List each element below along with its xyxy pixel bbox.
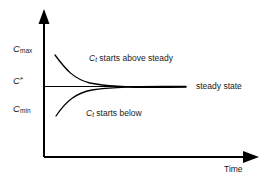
annotation-above-text: starts above steady bbox=[97, 53, 173, 63]
annotation-below-steady: Ct starts below bbox=[86, 109, 142, 119]
stock-adjustment-diagram: Cmax C* Cmin Ct starts above steady Ct s… bbox=[0, 0, 273, 182]
y-axis-label-cstar: C* bbox=[13, 76, 23, 86]
cmin-symbol: C bbox=[13, 103, 20, 114]
x-axis-arrowhead-icon bbox=[243, 151, 259, 163]
cmin-subscript: min bbox=[20, 107, 31, 114]
y-axis-label-cmin: Cmin bbox=[13, 104, 31, 115]
y-axis-label-cmax: Cmax bbox=[13, 44, 32, 55]
cstar-symbol: C bbox=[13, 75, 20, 86]
cmax-symbol: C bbox=[13, 43, 20, 54]
annotation-steady-state: steady state bbox=[196, 82, 242, 91]
y-axis-arrowhead-icon bbox=[39, 9, 50, 24]
annotation-above-steady: Ct starts above steady bbox=[89, 54, 173, 64]
plot-canvas bbox=[0, 0, 273, 182]
annotation-below-text: starts below bbox=[94, 108, 142, 118]
cstar-superscript: * bbox=[20, 75, 23, 84]
cmax-subscript: max bbox=[20, 47, 33, 54]
x-axis-label: Time bbox=[224, 165, 243, 174]
